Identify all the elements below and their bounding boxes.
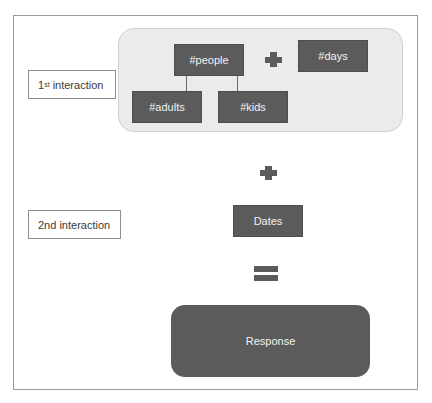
- equals-icon: [254, 266, 278, 282]
- second-interaction-label: 2nd interaction: [28, 210, 121, 239]
- people-adults-connector: [186, 76, 187, 91]
- days-node: #days: [298, 40, 368, 72]
- first-interaction-label: 1st interaction: [28, 70, 116, 99]
- dates-node: Dates: [233, 205, 303, 237]
- people-kids-connector: [237, 76, 238, 91]
- plus-icon: [260, 166, 277, 180]
- response-node: Response: [171, 305, 370, 377]
- first-interaction-suffix: interaction: [50, 79, 104, 91]
- plus-icon: [265, 52, 282, 67]
- people-node: #people: [174, 44, 244, 76]
- adults-node: #adults: [132, 91, 202, 123]
- kids-node: #kids: [218, 91, 288, 123]
